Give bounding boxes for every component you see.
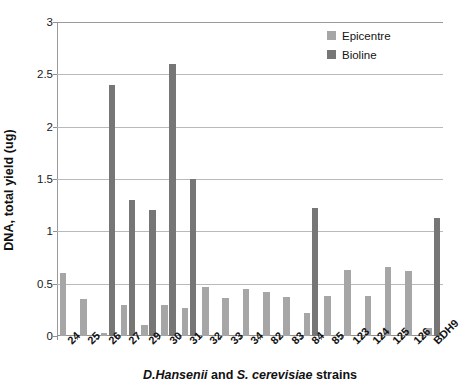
- y-tick-label: 0.5: [27, 278, 53, 290]
- x-axis-title: D.Hansenii and S. cerevisiae strains: [57, 368, 443, 382]
- bar-group: [199, 22, 219, 336]
- bar-group: [138, 22, 158, 336]
- y-tick-mark: [53, 22, 57, 23]
- bar-group: [240, 22, 260, 336]
- x-axis-title-suffix: strains: [313, 368, 357, 382]
- plot-area: [57, 22, 443, 336]
- bar-epicentre-25: [80, 299, 87, 336]
- bar-group: [423, 22, 443, 336]
- bar-chart: DNA, total yield (ug) 00.511.522.53 2425…: [0, 0, 464, 391]
- bar-epicentre-123: [344, 270, 351, 336]
- bar-group: [341, 22, 361, 336]
- bar-epicentre-84: [304, 313, 311, 336]
- bar-epicentre-34: [243, 289, 250, 336]
- legend-item-epicentre: Epicentre: [327, 26, 447, 45]
- bar-group: [301, 22, 321, 336]
- bar-group: [362, 22, 382, 336]
- bar-bioline-26: [109, 85, 116, 336]
- x-axis-tick-labels: 2425262729303132333482838485123124125126…: [57, 338, 443, 368]
- bar-group: [260, 22, 280, 336]
- bar-epicentre-83: [283, 297, 290, 336]
- y-tick-label: 1.5: [27, 173, 53, 185]
- bar-bioline-27: [129, 200, 136, 336]
- y-tick-mark: [53, 127, 57, 128]
- bar-epicentre-31: [182, 308, 189, 336]
- bar-epicentre-24: [60, 273, 67, 336]
- bar-group: [220, 22, 240, 336]
- x-axis-title-conjunction: and: [208, 368, 237, 382]
- y-tick-mark: [53, 74, 57, 75]
- y-tick-label: 1: [27, 225, 53, 237]
- bar-bioline-29: [149, 210, 156, 336]
- bar-group: [179, 22, 199, 336]
- y-tick-mark: [53, 336, 57, 337]
- bar-epicentre-32: [202, 287, 209, 336]
- legend: EpicentreBioline: [327, 26, 447, 64]
- bar-group: [159, 22, 179, 336]
- bar-group: [77, 22, 97, 336]
- bar-epicentre-85: [324, 296, 331, 336]
- bar-bioline-31: [190, 179, 197, 336]
- legend-item-bioline: Bioline: [327, 45, 447, 64]
- legend-swatch-epicentre: [327, 31, 336, 40]
- bar-epicentre-82: [263, 292, 270, 336]
- species-name-1: D.Hansenii: [143, 368, 208, 382]
- y-tick-mark: [53, 179, 57, 180]
- bar-epicentre-29: [141, 325, 148, 337]
- y-tick-mark: [53, 231, 57, 232]
- legend-label: Bioline: [342, 49, 377, 61]
- bar-group: [402, 22, 422, 336]
- y-tick-label: 0: [27, 330, 53, 342]
- bar-group: [118, 22, 138, 336]
- y-tick-label: 3: [27, 16, 53, 28]
- y-tick-label: 2: [27, 121, 53, 133]
- y-tick-label: 2.5: [27, 68, 53, 80]
- species-name-2: S. cerevisiae: [237, 368, 313, 382]
- bar-bioline-84: [312, 208, 319, 336]
- bar-group: [321, 22, 341, 336]
- bar-group: [280, 22, 300, 336]
- bar-group: [98, 22, 118, 336]
- bar-epicentre-126: [405, 271, 412, 336]
- bar-epicentre-26: [101, 333, 108, 336]
- bar-group: [382, 22, 402, 336]
- bar-epicentre-125: [385, 267, 392, 336]
- bar-epicentre-33: [222, 298, 229, 336]
- legend-swatch-bioline: [327, 50, 336, 59]
- bar-group: [57, 22, 77, 336]
- bar-epicentre-27: [121, 305, 128, 336]
- y-axis-title: DNA, total yield (ug): [2, 33, 24, 347]
- legend-label: Epicentre: [342, 30, 391, 42]
- y-axis-tick-labels: 00.511.522.53: [24, 0, 53, 391]
- bar-bioline-BDH9: [434, 218, 441, 336]
- y-tick-mark: [53, 284, 57, 285]
- bar-epicentre-30: [161, 305, 168, 336]
- bar-bioline-30: [169, 64, 176, 336]
